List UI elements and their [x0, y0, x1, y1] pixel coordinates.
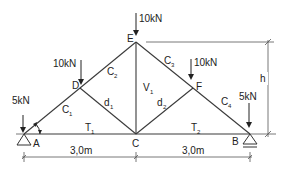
node-label-c: C [132, 138, 139, 149]
node-label-e: E [127, 33, 134, 44]
svg-text:1: 1 [150, 89, 154, 95]
load-label-e: 10kN [139, 13, 162, 24]
left-span-label: 3,0m [70, 145, 92, 156]
svg-text:V: V [143, 82, 150, 93]
svg-text:4: 4 [228, 103, 232, 109]
load-arrow-b-icon [246, 103, 252, 128]
svg-text:1: 1 [110, 104, 114, 110]
svg-text:d: d [104, 97, 110, 108]
node-label-f: F [196, 81, 202, 92]
member-label-t2: T 2 [191, 122, 201, 135]
member-label-c1: C 1 [62, 104, 73, 117]
member-label-d1: d 1 [104, 97, 114, 110]
pin-support-a-icon [17, 134, 31, 145]
angle-arrow-head-bottom [38, 130, 42, 134]
member-c2 [80, 42, 136, 88]
node-label-a: A [33, 138, 40, 149]
svg-text:2: 2 [114, 73, 118, 79]
member-label-c2: C 2 [107, 66, 118, 79]
svg-text:d: d [157, 97, 163, 108]
load-label-b: 5kN [239, 91, 257, 102]
svg-text:1: 1 [69, 111, 73, 117]
load-label-a: 5kN [12, 95, 30, 106]
load-label-f: 10kN [194, 57, 217, 68]
right-span-label: 3,0m [182, 145, 204, 156]
height-label: h [260, 73, 266, 84]
member-d2 [136, 88, 193, 134]
member-label-c4: C 4 [221, 96, 232, 109]
roller-support-b-icon [243, 134, 257, 144]
load-label-d: 10kN [53, 58, 76, 69]
truss-diagram: h 3,0m 3,0m 5kN 10kN 10kN 10kN 5kN A B [0, 0, 287, 173]
load-arrow-a-icon [20, 115, 26, 133]
svg-text:3: 3 [171, 62, 175, 68]
member-label-t1: T 1 [85, 122, 95, 135]
member-label-v1: V 1 [143, 82, 154, 95]
node-label-d: D [72, 80, 79, 91]
member-label-d2: d 2 [157, 97, 167, 110]
node-label-b: B [232, 136, 239, 147]
